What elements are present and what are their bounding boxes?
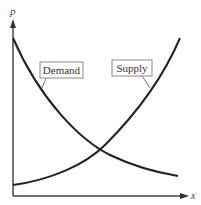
y-axis-arrow-icon [10,19,16,28]
supply-curve [13,38,180,185]
y-axis [10,19,16,196]
supply-label: Supply [116,62,148,74]
supply-demand-diagram: p x Demand Supply [0,0,201,205]
x-axis-label: x [190,190,196,201]
demand-curve [13,38,178,176]
y-axis-label: p [9,5,16,17]
supply-label-box: Supply [112,60,152,88]
demand-label: Demand [43,64,81,76]
x-axis [13,193,189,199]
x-axis-arrow-icon [180,193,189,199]
demand-label-box: Demand [40,62,83,88]
